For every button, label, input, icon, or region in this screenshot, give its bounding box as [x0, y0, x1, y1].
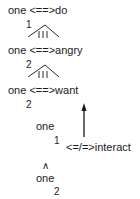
row4-index: 1 [54, 135, 60, 146]
row4-link-interact: <=/=>interact [66, 141, 131, 153]
causal-link-icon-1 [28, 25, 59, 38]
row5-actor: one [36, 172, 54, 184]
row4-actor: one [36, 120, 54, 132]
up-arrow-icon [82, 103, 87, 137]
causal-link-icon-2 [28, 65, 59, 78]
causal-link-label-2: 2 [26, 59, 32, 70]
row3-index: 2 [26, 99, 32, 110]
row-one-angry: one <==>angry [8, 44, 83, 56]
row-one-want: one <==>want [8, 84, 78, 96]
diagram-lines [0, 0, 140, 199]
row5-caret: ∧ [42, 160, 49, 171]
row5-index: 2 [54, 186, 60, 197]
